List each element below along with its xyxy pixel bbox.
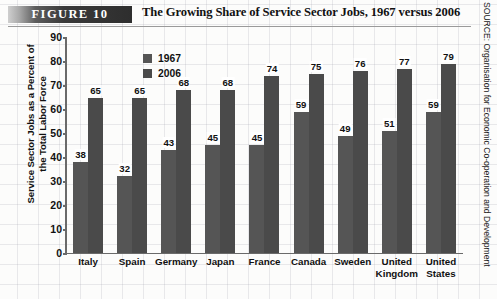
legend-swatch-2006-icon	[143, 69, 152, 78]
x-axis-label: Italy	[66, 256, 110, 279]
x-axis-label: UnitedKingdom	[375, 256, 419, 279]
bar-1967: 32	[117, 176, 132, 252]
bar-value-label: 65	[89, 85, 102, 96]
y-tick-70: 70	[38, 79, 62, 91]
bar-value-label: 38	[74, 149, 87, 160]
bar-groups: 386532654368456845745975497651775979	[66, 38, 463, 253]
legend-label-2006: 2006	[158, 68, 181, 79]
bar-1967: 45	[249, 145, 264, 252]
bar-value-label: 51	[383, 118, 396, 129]
bar-group: 5979	[419, 38, 463, 253]
y-tick-40: 40	[38, 151, 62, 163]
bar-1967: 59	[426, 112, 441, 253]
x-axis-label: France	[242, 256, 286, 279]
source-note: SOURCE: Organisation for Economic Co-ope…	[480, 2, 492, 299]
bar-group: 3865	[66, 38, 110, 253]
bar-1967: 49	[338, 136, 353, 253]
x-axis-label: Spain	[110, 256, 154, 279]
y-tick-80: 80	[38, 55, 62, 67]
bar-group: 5975	[287, 38, 331, 253]
bar-2006: 74	[264, 76, 279, 252]
x-axis-line	[65, 253, 463, 255]
bar-2006: 68	[220, 90, 235, 252]
x-axis-label: Sweden	[331, 256, 375, 279]
x-axis-label: Germany	[154, 256, 198, 279]
bar-2006: 79	[441, 64, 456, 252]
bar-value-label: 59	[295, 99, 308, 110]
figure-title: The Growing Share of Service Sector Jobs…	[142, 5, 460, 20]
bar-2006: 77	[397, 69, 412, 253]
bar-2006: 65	[132, 98, 147, 253]
bar-2006: 76	[353, 71, 368, 252]
bar-2006: 68	[176, 90, 191, 252]
legend-item-2006: 2006	[143, 67, 181, 79]
legend-item-1967: 1967	[143, 52, 181, 64]
y-tick-10: 10	[38, 223, 62, 235]
bar-value-label: 45	[251, 132, 264, 143]
bar-group: 4976	[331, 38, 375, 253]
bar-2006: 65	[88, 98, 103, 253]
bar-1967: 51	[382, 131, 397, 253]
legend-label-1967: 1967	[158, 53, 181, 64]
x-axis-label: UnitedStates	[419, 256, 463, 279]
y-tick-60: 60	[38, 103, 62, 115]
bar-value-label: 75	[310, 61, 323, 72]
bar-value-label: 59	[427, 99, 440, 110]
figure-number-badge: FIGURE 10	[8, 6, 132, 23]
bar-value-label: 43	[162, 137, 175, 148]
bar-1967: 38	[73, 162, 88, 253]
y-tick-20: 20	[38, 199, 62, 211]
bar-value-label: 74	[266, 63, 279, 74]
legend-swatch-1967-icon	[143, 54, 152, 63]
figure-header: FIGURE 10 The Growing Share of Service S…	[0, 4, 476, 28]
bar-group: 5177	[375, 38, 419, 253]
bar-value-label: 32	[118, 163, 131, 174]
y-tick-90: 90	[38, 31, 62, 43]
x-axis-labels: ItalySpainGermanyJapanFranceCanadaSweden…	[66, 256, 463, 279]
bar-value-label: 79	[442, 51, 455, 62]
x-axis-label: Japan	[198, 256, 242, 279]
bar-group: 4568	[198, 38, 242, 253]
bar-value-label: 68	[222, 77, 235, 88]
x-axis-label: Canada	[287, 256, 331, 279]
y-tick-0: 0	[38, 247, 62, 259]
bar-value-label: 49	[339, 123, 352, 134]
bar-value-label: 45	[207, 132, 220, 143]
bar-chart: Service Sector Jobs as a Percent of the …	[8, 32, 471, 290]
bar-value-label: 65	[133, 85, 146, 96]
bar-2006: 75	[309, 74, 324, 253]
bar-value-label: 77	[398, 56, 411, 67]
y-tick-30: 30	[38, 175, 62, 187]
plot-area: 90 80 70 60 50 40 30 20 10 0 1967 2006 3…	[65, 38, 463, 254]
bar-1967: 45	[205, 145, 220, 252]
bar-1967: 43	[161, 150, 176, 252]
bar-group: 4574	[242, 38, 286, 253]
bar-value-label: 76	[354, 58, 367, 69]
chart-legend: 1967 2006	[143, 52, 181, 82]
y-tick-50: 50	[38, 127, 62, 139]
header-divider	[8, 26, 471, 27]
bar-1967: 59	[294, 112, 309, 253]
